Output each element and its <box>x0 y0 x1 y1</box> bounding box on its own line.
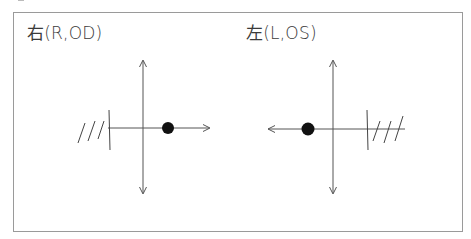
hatch-marks-icon <box>78 121 104 143</box>
hatch-marks-icon <box>373 116 403 143</box>
left-eye-boundary-line <box>367 110 368 150</box>
left-eye-panel <box>268 60 405 194</box>
fixation-dot-icon <box>302 123 315 136</box>
right-eye-panel <box>78 60 210 194</box>
right-eye-boundary-line <box>109 110 110 150</box>
fixation-dot-icon <box>162 122 174 134</box>
eye-field-diagram <box>0 0 471 239</box>
